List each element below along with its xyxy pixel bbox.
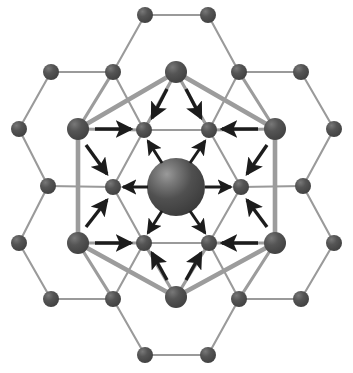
outer-left-mid-atom bbox=[11, 121, 27, 137]
outer-left-center-atom bbox=[11, 235, 27, 251]
inner-lower-right-atom bbox=[201, 235, 217, 251]
outer-right-center-atom bbox=[326, 235, 342, 251]
outer-bottom-left-atom bbox=[137, 347, 153, 363]
inner-right-atom bbox=[233, 179, 249, 195]
lattice-figure bbox=[0, 0, 353, 373]
outer-top-left-atom bbox=[137, 7, 153, 23]
inner-upper-left-atom bbox=[136, 122, 152, 138]
thin-bond-11 bbox=[48, 186, 113, 187]
outer-upper-left-far-atom bbox=[43, 64, 59, 80]
outer-upper-right-far-atom bbox=[293, 64, 309, 80]
upper-left-atom bbox=[67, 118, 89, 140]
interstitial-atom bbox=[147, 158, 205, 216]
outer-upper-left-in-atom bbox=[105, 64, 121, 80]
outer-right-mid-atom bbox=[326, 121, 342, 137]
bottom-atom bbox=[165, 286, 187, 308]
outer-mid-left-atom bbox=[40, 178, 56, 194]
upper-right-atom bbox=[264, 118, 286, 140]
outer-mid-right-atom bbox=[295, 178, 311, 194]
outer-lower-left-in-atom bbox=[105, 291, 121, 307]
outer-upper-right-in-atom bbox=[231, 64, 247, 80]
outer-top-right-atom bbox=[200, 7, 216, 23]
outer-bottom-right-atom bbox=[200, 347, 216, 363]
outer-lower-right-in-atom bbox=[231, 291, 247, 307]
outer-lower-right-far-atom bbox=[293, 291, 309, 307]
thin-bond-12 bbox=[241, 186, 303, 187]
inner-upper-right-atom bbox=[201, 122, 217, 138]
inner-lower-left-atom bbox=[136, 235, 152, 251]
inner-left-atom bbox=[105, 179, 121, 195]
lower-right-atom bbox=[264, 232, 286, 254]
top-atom bbox=[165, 61, 187, 83]
lattice-diagram bbox=[0, 0, 353, 373]
outer-lower-left-far-atom bbox=[43, 291, 59, 307]
lower-left-atom bbox=[67, 232, 89, 254]
